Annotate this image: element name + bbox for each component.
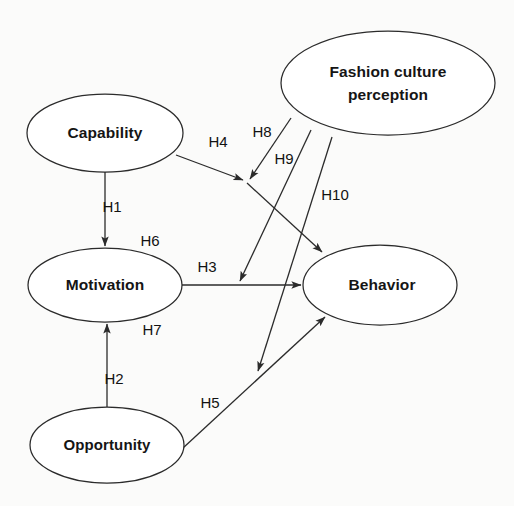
motivation-label: Motivation: [66, 276, 145, 293]
node-opportunity[interactable]: Opportunity: [30, 407, 184, 483]
node-motivation[interactable]: Motivation: [28, 248, 182, 322]
edge-label-h9: H9: [274, 150, 293, 167]
edge-h10-line: [258, 137, 332, 371]
edge-h4-line: [176, 155, 243, 180]
diagram-canvas: Capability Fashion culture perception Mo…: [0, 0, 514, 506]
fashion-culture-perception-ellipse: [281, 31, 495, 135]
fashion-culture-perception-label-line1: Fashion culture: [330, 63, 447, 80]
edge-h5-line: [183, 317, 325, 448]
edge-label-h6: H6: [140, 232, 159, 249]
behavior-label: Behavior: [348, 276, 415, 293]
node-capability[interactable]: Capability: [27, 94, 183, 172]
node-behavior[interactable]: Behavior: [303, 245, 457, 325]
node-fashion-culture-perception[interactable]: Fashion culture perception: [281, 31, 495, 135]
edge-label-h10: H10: [321, 186, 349, 203]
edge-label-h7: H7: [142, 321, 161, 338]
capability-label: Capability: [67, 124, 142, 141]
opportunity-label: Opportunity: [64, 436, 151, 453]
edge-label-h1: H1: [102, 198, 121, 215]
edge-label-h3: H3: [197, 258, 216, 275]
fashion-culture-perception-label-line2: perception: [348, 86, 428, 103]
edge-label-h4: H4: [208, 133, 227, 150]
edge-label-h5: H5: [200, 394, 219, 411]
path-model-diagram: Capability Fashion culture perception Mo…: [0, 0, 514, 506]
edge-label-h8: H8: [252, 123, 271, 140]
edge-label-h2: H2: [104, 370, 123, 387]
